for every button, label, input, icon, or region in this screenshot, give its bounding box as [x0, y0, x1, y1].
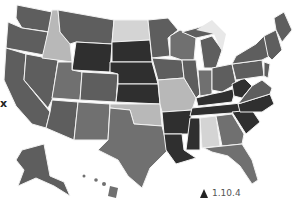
state-FL[interactable]	[204, 144, 258, 184]
state-SD[interactable]	[112, 40, 152, 62]
left-marker-label: x	[0, 97, 7, 110]
state-NY[interactable]	[232, 36, 270, 64]
state-NM[interactable]	[74, 102, 110, 140]
state-AZ[interactable]	[46, 100, 78, 140]
state-IA[interactable]	[152, 58, 184, 80]
state-NJ[interactable]	[264, 62, 270, 78]
state-CO[interactable]	[80, 72, 118, 102]
triangle-up-icon	[200, 189, 208, 198]
state-AK[interactable]	[16, 144, 70, 196]
state-AR[interactable]	[162, 110, 192, 134]
state-MT[interactable]	[58, 10, 114, 44]
state-ND[interactable]	[112, 20, 150, 42]
state-KS[interactable]	[116, 84, 160, 104]
us-map	[0, 0, 302, 203]
state-HI[interactable]	[83, 175, 119, 199]
version-label: 1.10.4	[212, 188, 241, 198]
state-WY[interactable]	[72, 42, 112, 72]
state-IN[interactable]	[198, 70, 212, 96]
